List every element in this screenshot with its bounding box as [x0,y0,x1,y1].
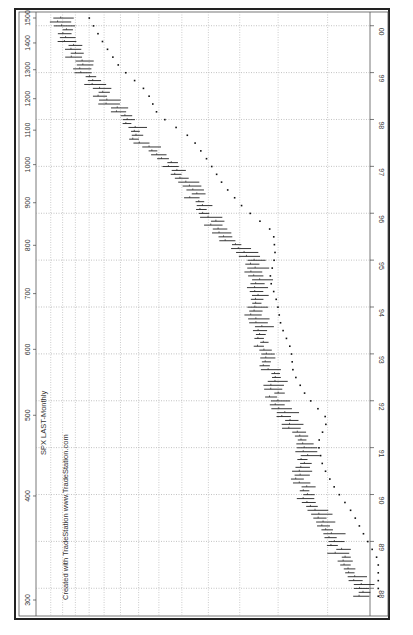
price-chart: 0099989796959493929190898815001400130012… [0,0,413,635]
price-tick-label: 1000 [24,157,31,173]
year-tick-label: 97 [378,168,385,176]
chart-credit: Created with TradeStation www.TradeStati… [61,434,70,600]
price-tick-label: 1200 [24,91,31,107]
year-tick-label: 94 [378,309,385,317]
price-tick-label: 1500 [24,10,31,26]
year-tick-label: 95 [378,262,385,270]
year-tick-label: 91 [378,450,385,458]
year-tick-label: 98 [378,121,385,129]
price-tick-label: 1400 [24,35,31,51]
price-tick-label: 300 [24,594,31,606]
year-tick-label: 96 [378,215,385,223]
price-tick-label: 800 [24,239,31,251]
price-tick-label: 1300 [24,62,31,78]
price-tick-label: 700 [24,288,31,300]
year-tick-label: 99 [378,75,385,83]
year-tick-label: 93 [378,356,385,364]
year-tick-label: 90 [378,497,385,505]
year-tick-label: 00 [378,28,385,36]
year-tick-label: 92 [378,403,385,411]
price-tick-label: 500 [24,409,31,421]
inner-border [19,12,388,616]
year-tick-label: 89 [378,543,385,551]
price-tick-label: 1100 [24,123,31,138]
price-tick-label: 600 [24,343,31,355]
price-tick-label: 400 [24,490,31,502]
chart-title: SPX LAST-Monthly [39,391,48,455]
price-tick-label: 900 [24,197,31,209]
